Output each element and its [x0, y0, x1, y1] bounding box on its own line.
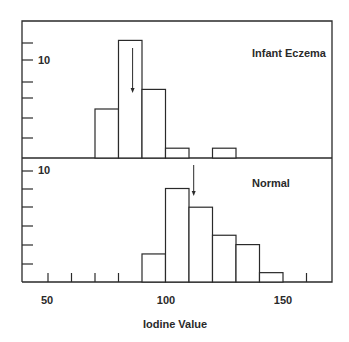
bottom-histogram-bar — [213, 235, 237, 282]
top-panel-title: Infant Eczema — [252, 47, 326, 59]
x-axis-label: Iodine Value — [143, 318, 207, 330]
bottom-histogram-bar — [236, 245, 260, 282]
bottom-histogram-bar — [142, 254, 166, 282]
top-histogram-bar — [142, 89, 166, 158]
x-tick-label-100: 100 — [157, 294, 175, 306]
bottom-mean-arrow-head — [192, 191, 196, 196]
top-histogram-bar — [95, 109, 119, 158]
top-histogram-bar — [166, 148, 190, 158]
top-histogram-bar — [213, 148, 237, 158]
bottom-histogram-bar — [260, 273, 284, 282]
bottom-panel-title: Normal — [252, 177, 290, 189]
bottom-histogram-bar — [189, 207, 213, 282]
bottom-histogram-bar — [166, 189, 190, 283]
x-tick-label-150: 150 — [274, 294, 292, 306]
top-y-tick-label: 10 — [38, 54, 50, 66]
top-histogram-bar — [119, 40, 143, 158]
x-tick-label-50: 50 — [41, 294, 53, 306]
bottom-y-tick-label: 10 — [38, 164, 50, 176]
